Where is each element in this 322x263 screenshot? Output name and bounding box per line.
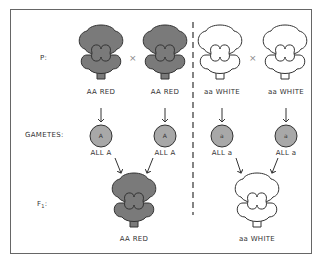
flower-red-parent-1 [79,25,123,79]
label-offspring-white: aa WHITE [239,235,275,243]
label-gametes: GAMETES: [25,131,64,139]
flower-white-parent-2 [263,25,307,79]
label-parent-red-2: AA RED [151,88,179,96]
label-parent-white-2: aa WHITE [268,88,304,96]
flower-white-parent-1 [198,25,242,79]
cross-symbol-left: × [129,53,137,63]
label-all-a-2: ALL a [276,149,297,157]
label-parent-red-1: AA RED [87,88,115,96]
gamete-letter-a-1: a [220,132,224,139]
label-all-A-1: ALL A [90,149,111,157]
label-parent-white-1: aa WHITE [204,88,240,96]
gamete-letter-A-2: A [163,132,167,139]
flower-red-offspring [112,173,156,227]
gamete-letter-A-1: A [99,132,103,139]
gamete-letter-a-2: a [284,132,288,139]
label-all-a-1: ALL a [212,149,233,157]
flower-red-parent-2 [143,25,187,79]
flower-white-offspring [235,173,279,227]
label-p: P: [40,54,47,62]
cross-symbol-right: × [249,53,257,63]
label-f1: F1: [37,200,47,209]
label-offspring-red: AA RED [120,235,148,243]
label-all-A-2: ALL A [154,149,175,157]
